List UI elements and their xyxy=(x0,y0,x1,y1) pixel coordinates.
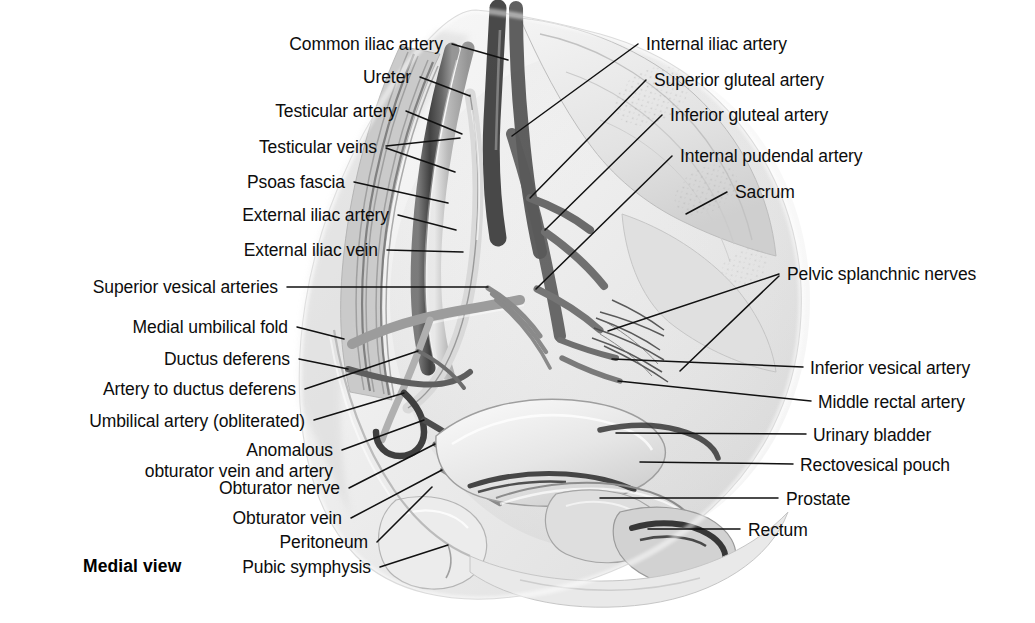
leader-line-superior-gluteal-artery xyxy=(530,80,646,198)
label-internal-iliac-artery: Internal iliac artery xyxy=(646,34,787,55)
label-psoas-fascia: Psoas fascia xyxy=(247,172,345,193)
leader-line-obturator-nerve xyxy=(349,444,435,488)
leader-line-internal-pudendal-artery xyxy=(536,156,672,289)
leader-line-medial-umbilical-fold xyxy=(297,327,344,339)
leader-line-peritoneum xyxy=(377,487,432,542)
leader-line-obturator-vein xyxy=(351,470,442,518)
label-testicular-veins: Testicular veins xyxy=(259,137,377,158)
label-rectum: Rectum xyxy=(748,520,808,541)
label-sacrum: Sacrum xyxy=(735,182,795,203)
leader-line-testicular-veins-2 xyxy=(386,148,455,172)
leader-line-psoas-fascia xyxy=(354,182,448,203)
label-middle-rectal-artery: Middle rectal artery xyxy=(818,392,965,413)
leader-line-external-iliac-artery xyxy=(398,215,456,230)
label-prostate: Prostate xyxy=(786,489,850,510)
leader-line-testicular-artery xyxy=(406,111,462,134)
pelvis-illustration xyxy=(0,0,1035,623)
leader-line-ureter xyxy=(420,77,470,96)
label-testicular-artery: Testicular artery xyxy=(275,101,397,122)
leader-line-pelvic-splanchnic-nerves xyxy=(608,274,779,331)
label-ductus-deferens: Ductus deferens xyxy=(164,349,290,370)
leader-line-external-iliac-vein xyxy=(387,250,463,252)
leader-lines xyxy=(0,0,1035,623)
leader-line-rectovesical-pouch xyxy=(640,462,793,464)
label-superior-vesical-arteries: Superior vesical arteries xyxy=(93,277,278,298)
label-external-iliac-artery: External iliac artery xyxy=(242,205,389,226)
leader-line-sacrum xyxy=(686,192,727,214)
leader-line-middle-rectal-artery xyxy=(618,381,811,401)
label-urinary-bladder: Urinary bladder xyxy=(813,425,931,446)
label-obturator-nerve: Obturator nerve xyxy=(219,478,340,499)
label-peritoneum: Peritoneum xyxy=(280,532,369,553)
label-external-iliac-vein: External iliac vein xyxy=(244,240,378,261)
leader-line-anomalous xyxy=(342,420,424,450)
anatomical-plate: Common iliac arteryUreterTesticular arte… xyxy=(0,0,1035,623)
label-ureter: Ureter xyxy=(363,67,411,88)
label-internal-pudendal-artery: Internal pudendal artery xyxy=(680,146,862,167)
leader-line-testicular-veins xyxy=(386,138,460,146)
view-caption: Medial view xyxy=(83,556,181,577)
leader-line-inferior-gluteal-artery xyxy=(545,115,662,230)
label-obturator-vein: Obturator vein xyxy=(233,508,343,529)
label-medial-umbilical-fold: Medial umbilical fold xyxy=(133,317,288,338)
label-inferior-vesical-artery: Inferior vesical artery xyxy=(810,358,970,379)
label-rectovesical-pouch: Rectovesical pouch xyxy=(800,455,950,476)
leader-line-ductus-deferens xyxy=(299,359,348,369)
leader-line-pelvic-splanchnic-nerves-2 xyxy=(680,276,779,371)
label-pubic-symphysis: Pubic symphysis xyxy=(242,557,371,578)
leader-line-artery-to-ductus-deferens xyxy=(305,351,418,389)
label-artery-to-ductus-deferens: Artery to ductus deferens xyxy=(103,379,296,400)
label-anomalous: Anomalous obturator vein and artery xyxy=(145,440,333,482)
leader-line-inferior-vesical-artery xyxy=(612,359,803,367)
leader-line-umbilical-artery xyxy=(314,393,404,420)
label-pelvic-splanchnic-nerves: Pelvic splanchnic nerves xyxy=(787,264,976,285)
leader-line-internal-iliac-artery xyxy=(512,44,638,136)
label-common-iliac-artery: Common iliac artery xyxy=(289,34,443,55)
leader-line-urinary-bladder xyxy=(616,433,806,434)
label-superior-gluteal-artery: Superior gluteal artery xyxy=(654,70,824,91)
leader-line-pubic-symphysis xyxy=(380,545,448,567)
label-umbilical-artery: Umbilical artery (obliterated) xyxy=(89,411,305,432)
label-inferior-gluteal-artery: Inferior gluteal artery xyxy=(670,105,828,126)
leader-line-common-iliac-artery xyxy=(452,44,508,60)
